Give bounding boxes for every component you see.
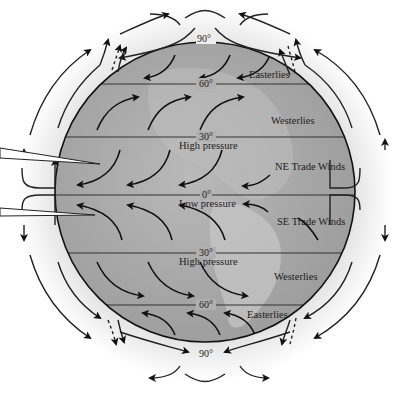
latitude-label-60s: 60°: [199, 299, 213, 310]
low-pressure-equator-label: Low pressure: [179, 198, 236, 209]
north-easterlies-label: Easterlies: [249, 69, 290, 80]
high-pressure-south-label: High pressure: [179, 256, 238, 267]
high-pressure-north-label: High pressure: [179, 140, 238, 151]
latitude-label-90n: 90°: [197, 33, 211, 44]
north-westerlies-label: Westerlies: [271, 115, 314, 126]
atmospheric-circulation-diagram: 90° 60° 30° 0° 30° 60° 90° High pressure…: [0, 0, 398, 394]
se-trade-winds-label: SE Trade Winds: [277, 216, 345, 227]
latitude-label-60n: 60°: [199, 78, 213, 89]
latitude-label-90s: 90°: [199, 348, 213, 359]
south-westerlies-label: Westerlies: [274, 271, 317, 282]
ne-trade-winds-label: NE Trade Winds: [275, 161, 345, 172]
south-easterlies-label: Easterlies: [247, 309, 288, 320]
